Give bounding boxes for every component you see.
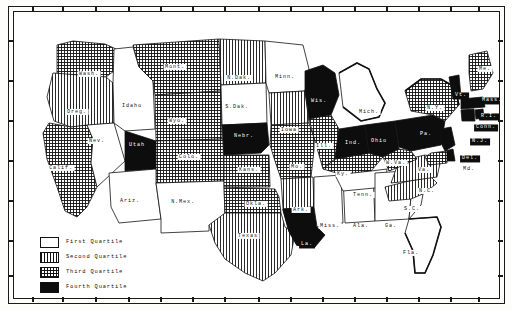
frame-tick (224, 297, 226, 302)
state-label: Ark. (292, 207, 311, 213)
state-label: W.Va. (385, 160, 408, 166)
state-label: Ky. (336, 171, 351, 177)
frame-tick (192, 297, 194, 302)
frame-tick (8, 120, 13, 122)
frame-tick (8, 80, 13, 82)
frame-tick (258, 6, 260, 11)
state-label: N.Dak. (226, 75, 253, 81)
state-label: Va. (417, 167, 432, 173)
frame-tick (95, 6, 97, 11)
state-label: Fla. (402, 250, 421, 256)
state-region (461, 109, 475, 121)
state-label: Wyo. (168, 118, 187, 124)
legend-label-third-quartile: Third Quartile (66, 270, 123, 275)
quartile-legend: First Quartile Second Quartile Third Qua… (40, 235, 148, 295)
state-region (269, 91, 309, 125)
state-label: Okla. (245, 201, 268, 207)
state-region (441, 127, 455, 151)
legend-item: Fourth Quartile (40, 280, 148, 295)
state-label: Mass. (480, 97, 500, 104)
state-label: Tenn. (352, 192, 375, 198)
frame-tick (498, 120, 503, 122)
frame-tick (192, 6, 194, 11)
state-label: Md. (462, 166, 477, 172)
state-label: S.Dak. (224, 104, 251, 110)
state-label: Mo. (290, 164, 305, 170)
map-plate: Wash.Oreg.Calif.Nev.IdahoMont.Wyo.UtahCo… (0, 0, 512, 311)
frame-tick (128, 6, 130, 11)
frame-tick (290, 6, 292, 11)
frame-tick (322, 297, 324, 302)
state-label: Ga. (384, 223, 399, 229)
state-label: Ala. (352, 223, 371, 229)
frame-tick (418, 6, 420, 11)
frame-tick (354, 6, 356, 11)
frame-tick (8, 200, 13, 202)
state-region (156, 139, 224, 183)
frame-tick (498, 80, 503, 82)
map-canvas: Wash.Oreg.Calif.Nev.IdahoMont.Wyo.UtahCo… (13, 11, 500, 299)
state-label: La. (299, 241, 315, 248)
frame-tick (450, 6, 452, 11)
legend-swatch-third-quartile (40, 267, 59, 278)
legend-label-first-quartile: First Quartile (66, 240, 123, 245)
state-label: Utah (127, 142, 147, 149)
legend-swatch-second-quartile (40, 252, 59, 263)
state-label: Vt. (453, 92, 469, 99)
state-region (425, 151, 447, 165)
frame-tick (354, 297, 356, 302)
legend-item: Third Quartile (40, 265, 148, 280)
frame-tick (160, 297, 162, 302)
state-label: Pa. (418, 131, 434, 138)
state-label: Del. (460, 155, 480, 162)
frame-tick (498, 40, 503, 42)
state-region (109, 169, 161, 223)
frame-tick (258, 297, 260, 302)
state-label: Ind. (343, 140, 363, 147)
state-label: Me. (478, 66, 493, 72)
frame-tick (498, 160, 503, 162)
state-region (47, 73, 114, 127)
state-label: Wis. (309, 98, 329, 105)
state-label: Oreg. (66, 109, 89, 115)
state-label: N.Y. (426, 105, 445, 111)
frame-tick (478, 297, 480, 302)
frame-tick (290, 297, 292, 302)
state-label: Colo. (178, 154, 201, 160)
frame-tick (224, 6, 226, 11)
legend-label-second-quartile: Second Quartile (66, 255, 127, 260)
frame-tick (322, 6, 324, 11)
state-region (305, 65, 339, 119)
frame-tick (498, 240, 503, 242)
state-label: Minn. (274, 74, 297, 80)
state-label: Idaho (121, 103, 144, 109)
state-label: R.I. (479, 113, 499, 120)
frame-tick (160, 6, 162, 11)
state-label: Ohio (369, 138, 389, 145)
state-label: Conn. (474, 124, 498, 131)
legend-item: First Quartile (40, 235, 148, 250)
state-label: Iowa (280, 127, 299, 133)
state-region (155, 91, 222, 141)
state-label: S.C. (403, 206, 422, 212)
state-label: Kans. (238, 167, 261, 173)
state-label: Wash. (78, 71, 101, 77)
state-label: Ill. (315, 143, 334, 149)
state-label: Nebr. (232, 133, 256, 140)
state-region (125, 131, 156, 171)
state-label: Ariz. (119, 198, 142, 204)
state-label: Mont. (164, 64, 187, 70)
frame-tick (95, 297, 97, 302)
state-label: Nev. (88, 138, 107, 144)
state-label: Texas (237, 233, 260, 239)
frame-tick (62, 6, 64, 11)
frame-tick (450, 297, 452, 302)
state-region (209, 213, 295, 281)
frame-tick (8, 160, 13, 162)
frame-tick (8, 40, 13, 42)
state-label: N.J. (470, 138, 490, 145)
frame-tick (62, 297, 64, 302)
frame-tick (386, 6, 388, 11)
state-label: N.C. (418, 188, 437, 194)
frame-tick (32, 297, 34, 302)
